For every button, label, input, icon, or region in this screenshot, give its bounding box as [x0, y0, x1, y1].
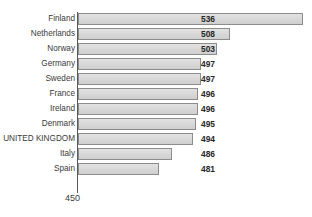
axis-min-tick-label: 450 [0, 194, 80, 203]
bar-row-united-kingdom[interactable]: UNITED KINGDOM 494 [0, 133, 312, 145]
bar-track: 494 [78, 133, 312, 145]
bar-value-label: 486 [184, 148, 232, 160]
category-label: Norway [47, 45, 75, 53]
bar[interactable] [78, 148, 172, 160]
category-label: Denmark [42, 120, 75, 128]
bar-row[interactable]: Netherlands 508 [0, 28, 312, 40]
bar[interactable] [78, 88, 198, 100]
bar-rows: Finland 536 Netherlands 508 Norway 503 [0, 13, 312, 178]
category-label: Spain [54, 165, 75, 173]
bar[interactable] [78, 118, 196, 130]
bar[interactable] [78, 58, 201, 70]
category-label: Sweden [45, 75, 75, 83]
bar-row[interactable]: Sweden 497 [0, 73, 312, 85]
bar-row[interactable]: France 496 [0, 88, 312, 100]
bar-track: 503 [78, 43, 312, 55]
bar[interactable] [78, 73, 201, 85]
bar-track: 486 [78, 148, 312, 160]
plot-area: Finland 536 Netherlands 508 Norway 503 [0, 0, 312, 217]
bar-track: 496 [78, 88, 312, 100]
bar-value-label: 481 [184, 163, 232, 175]
bar-row[interactable]: Finland 536 [0, 13, 312, 25]
bar[interactable] [78, 103, 198, 115]
category-label: France [50, 90, 75, 98]
bar-track: 495 [78, 118, 312, 130]
category-label: UNITED KINGDOM [3, 135, 75, 143]
bar-track: 481 [78, 163, 312, 175]
bar-chart: Finland 536 Netherlands 508 Norway 503 [0, 0, 312, 217]
bar-row[interactable]: Germany 497 [0, 58, 312, 70]
bar[interactable] [78, 43, 217, 55]
bar-track: 536 [78, 13, 312, 25]
category-label: Netherlands [31, 30, 75, 38]
bar[interactable] [78, 28, 230, 40]
bar-row[interactable]: Italy 486 [0, 148, 312, 160]
bar[interactable] [78, 13, 303, 25]
category-label: Ireland [50, 105, 75, 113]
bar-track: 497 [78, 58, 312, 70]
bar-row[interactable]: Norway 503 [0, 43, 312, 55]
bar[interactable] [78, 133, 193, 145]
bar[interactable] [78, 163, 159, 175]
bar-track: 496 [78, 103, 312, 115]
category-label: Germany [41, 60, 75, 68]
bar-row[interactable]: Ireland 496 [0, 103, 312, 115]
category-label: Finland [48, 15, 75, 23]
bar-row[interactable]: Spain 481 [0, 163, 312, 175]
bar-track: 497 [78, 73, 312, 85]
bar-track: 508 [78, 28, 312, 40]
category-label: Italy [60, 150, 75, 158]
bar-row[interactable]: Denmark 495 [0, 118, 312, 130]
